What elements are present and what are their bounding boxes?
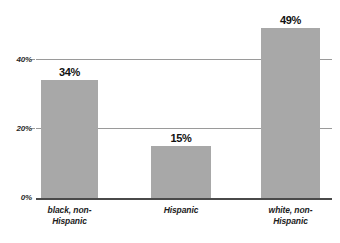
ytick-label-20: 20% bbox=[17, 124, 32, 133]
bar-value-white-non-hispanic: 49% bbox=[280, 14, 301, 26]
plot-area: 40% 20% 0% 34% 15% 49% bbox=[36, 8, 332, 199]
category-label-line-2: Hispanic bbox=[48, 216, 92, 227]
bar-white-non-hispanic[interactable] bbox=[261, 28, 320, 198]
category-label-line-1: Hispanic bbox=[164, 205, 199, 216]
bar-value-hispanic: 15% bbox=[170, 132, 191, 144]
bar-black-non-hispanic[interactable] bbox=[41, 80, 98, 198]
axis-baseline: 0% bbox=[36, 198, 332, 200]
category-label-line-1: black, non- bbox=[48, 205, 92, 216]
bar-chart: 40% 20% 0% 34% 15% 49% black, non- Hispa… bbox=[0, 0, 340, 243]
ytick-label-0: 0% bbox=[21, 193, 32, 202]
bar-hispanic[interactable] bbox=[151, 146, 211, 198]
bar-value-black-non-hispanic: 34% bbox=[59, 66, 80, 78]
category-label-hispanic: Hispanic bbox=[164, 205, 199, 216]
category-label-white-non-hispanic: white, non- Hispanic bbox=[269, 205, 313, 227]
category-label-line-2: Hispanic bbox=[269, 216, 313, 227]
category-label-black-non-hispanic: black, non- Hispanic bbox=[48, 205, 92, 227]
ytick-label-40: 40% bbox=[17, 55, 32, 64]
category-label-line-1: white, non- bbox=[269, 205, 313, 216]
